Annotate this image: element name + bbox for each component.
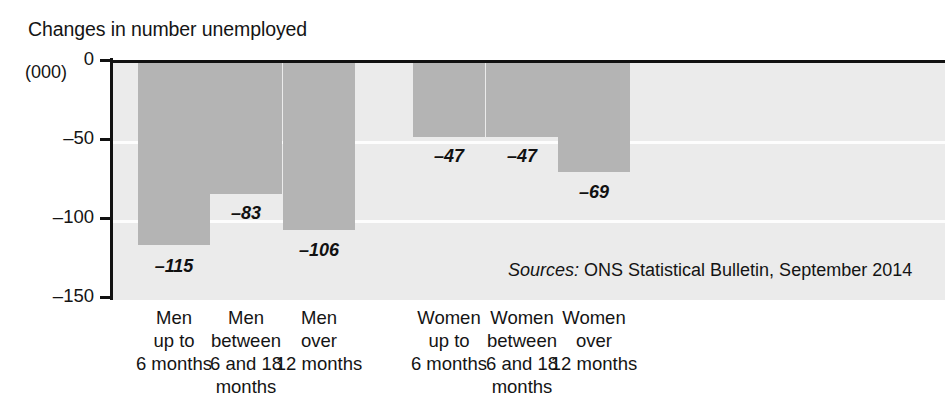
y-tick-label: –50 [0, 128, 94, 148]
bar-value-label: –83 [196, 203, 296, 223]
y-axis-spine [110, 58, 113, 300]
bar-value-label: –47 [472, 146, 572, 166]
bar [413, 63, 485, 137]
y-tick-label: –100 [0, 207, 94, 227]
bar-value-label: –106 [269, 240, 369, 260]
y-tick-mark [100, 138, 110, 141]
y-tick-mark [100, 59, 110, 62]
source-note-text: ONS Statistical Bulletin, September 2014 [579, 260, 912, 280]
source-note-label: Sources: [508, 260, 579, 280]
bar [210, 63, 282, 194]
bar-value-label: –69 [544, 182, 644, 202]
y-tick-mark [100, 296, 110, 299]
chart-title: Changes in number unemployed [28, 18, 307, 40]
bar [486, 63, 558, 137]
y-tick-mark [100, 217, 110, 220]
y-tick-label: 0 [0, 49, 94, 69]
source-note: Sources: ONS Statistical Bulletin, Septe… [508, 260, 912, 281]
bar-value-label: –115 [124, 256, 224, 276]
x-axis-category-label: Men over 12 months [249, 306, 389, 375]
chart-figure: Changes in number unemployed (000) 0–50–… [0, 0, 949, 415]
x-axis-category-label: Women over 12 months [524, 306, 664, 375]
y-tick-label: –150 [0, 286, 94, 306]
